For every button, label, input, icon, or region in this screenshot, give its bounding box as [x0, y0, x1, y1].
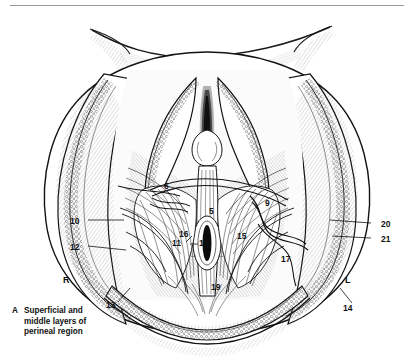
label-11: 11	[172, 239, 181, 248]
label-10: 10	[70, 217, 80, 226]
label-12: 12	[70, 243, 80, 252]
label-20: 20	[381, 220, 391, 229]
label-19: 19	[211, 283, 221, 292]
label-14: 14	[343, 304, 353, 313]
label-18: 18	[199, 239, 209, 248]
figure-caption: A Superficial and middle layers of perin…	[12, 306, 132, 338]
caption-line-3: perineal region	[24, 327, 132, 338]
caption-line-2: middle layers of	[24, 317, 132, 328]
figure-page: 6 5 9 10 12 16 11 18 15 17 20 21 13 14 1…	[0, 0, 414, 364]
caption-letter: A	[12, 306, 18, 317]
label-6: 6	[164, 182, 169, 191]
caption-line-1: Superficial and	[24, 306, 132, 317]
label-9: 9	[265, 199, 270, 208]
orientation-marker-right: R	[63, 275, 70, 285]
label-21: 21	[381, 235, 391, 244]
label-5: 5	[209, 207, 214, 216]
label-15: 15	[237, 232, 247, 241]
orientation-marker-left: L	[345, 275, 351, 285]
label-17: 17	[281, 255, 291, 264]
dissected-field	[113, 70, 308, 338]
